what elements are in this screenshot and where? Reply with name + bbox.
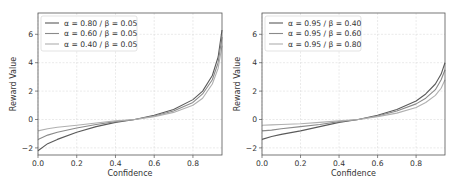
legend-label: α = 0.95 / β = 0.40 (288, 19, 362, 28)
chart-canvas: 0.00.20.40.60.8−20246ConfidenceReward Va… (0, 0, 453, 185)
y-tick-label: 2 (252, 87, 257, 96)
legend: α = 0.95 / β = 0.40α = 0.95 / β = 0.60α … (265, 16, 362, 51)
x-tick-label: 0.4 (109, 159, 121, 168)
y-tick-label: 6 (28, 30, 33, 39)
x-tick-label: 0.4 (333, 159, 345, 168)
left-panel: 0.00.20.40.60.8−20246ConfidenceReward Va… (9, 13, 222, 178)
x-tick-label: 0.8 (410, 159, 422, 168)
y-tick-label: 0 (28, 115, 33, 124)
y-axis-label: Reward Value (9, 57, 18, 111)
y-tick-label: 0 (252, 115, 257, 124)
legend-label: α = 0.40 / β = 0.05 (64, 40, 138, 49)
right-panel: 0.00.20.40.60.8−20246ConfidenceReward Va… (233, 13, 445, 178)
y-axis-label: Reward Value (233, 57, 242, 111)
x-tick-label: 0.8 (187, 159, 199, 168)
legend: α = 0.80 / β = 0.05α = 0.60 / β = 0.05α … (41, 16, 138, 51)
legend-label: α = 0.95 / β = 0.60 (288, 29, 362, 38)
x-tick-label: 0.0 (32, 159, 44, 168)
x-axis-label: Confidence (108, 169, 153, 178)
series-line-1 (38, 37, 222, 139)
x-tick-label: 0.2 (294, 159, 306, 168)
legend-label: α = 0.95 / β = 0.80 (288, 40, 362, 49)
y-tick-label: 4 (28, 58, 33, 67)
x-tick-label: 0.0 (256, 159, 268, 168)
y-tick-label: 4 (252, 58, 257, 67)
y-tick-label: −2 (246, 144, 257, 153)
y-tick-label: −2 (22, 144, 33, 153)
x-tick-label: 0.6 (148, 159, 160, 168)
legend-label: α = 0.80 / β = 0.05 (64, 19, 138, 28)
series-line-2 (38, 46, 222, 131)
x-tick-label: 0.6 (372, 159, 384, 168)
x-tick-label: 0.2 (71, 159, 83, 168)
y-tick-label: 6 (252, 30, 257, 39)
y-tick-label: 2 (28, 87, 33, 96)
x-axis-label: Confidence (331, 169, 376, 178)
legend-label: α = 0.60 / β = 0.05 (64, 29, 138, 38)
